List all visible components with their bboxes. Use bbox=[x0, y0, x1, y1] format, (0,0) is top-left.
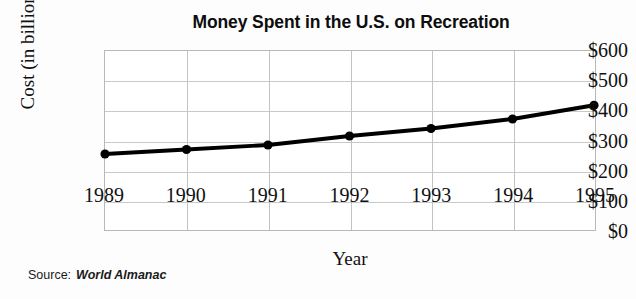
source-value: World Almanac bbox=[76, 268, 166, 282]
data-point-marker bbox=[182, 145, 191, 154]
x-tick-label: 1990 bbox=[141, 184, 231, 207]
source-label: Source: bbox=[28, 268, 71, 282]
x-tick-label: 1989 bbox=[59, 184, 149, 207]
y-tick-label: $600 bbox=[546, 39, 628, 62]
x-tick-label: 1992 bbox=[305, 184, 395, 207]
chart-title: Money Spent in the U.S. on Recreation bbox=[96, 12, 606, 33]
data-point-marker bbox=[426, 124, 435, 133]
data-point-marker bbox=[345, 131, 354, 140]
x-tick-label: 1994 bbox=[468, 184, 558, 207]
y-tick-label: $400 bbox=[546, 99, 628, 122]
y-tick-label: $300 bbox=[546, 129, 628, 152]
y-axis-title: Cost (in billions) bbox=[17, 0, 39, 135]
x-tick-label: 1991 bbox=[223, 184, 313, 207]
y-tick-label: $0 bbox=[546, 220, 628, 243]
data-point-marker bbox=[508, 114, 517, 123]
x-tick-label: 1995 bbox=[550, 184, 636, 207]
y-tick-label: $500 bbox=[546, 69, 628, 92]
data-point-marker bbox=[100, 149, 109, 158]
data-point-marker bbox=[263, 140, 272, 149]
x-axis-title: Year bbox=[104, 248, 596, 270]
series-line bbox=[105, 105, 594, 154]
y-tick-label: $200 bbox=[546, 159, 628, 182]
source-note: Source:World Almanac bbox=[28, 268, 166, 282]
chart-figure: Money Spent in the U.S. on Recreation Co… bbox=[0, 0, 636, 299]
x-tick-label: 1993 bbox=[386, 184, 476, 207]
